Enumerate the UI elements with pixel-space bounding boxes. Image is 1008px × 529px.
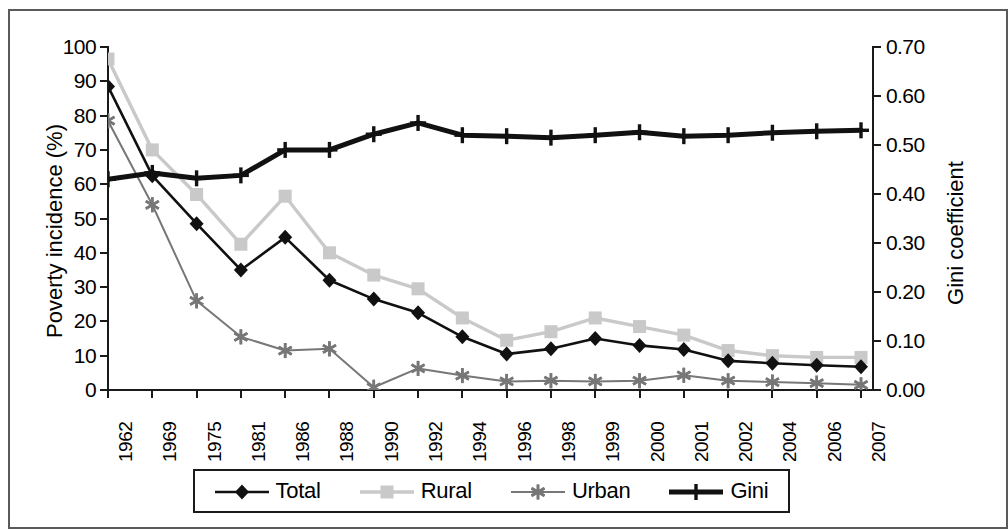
left-tick-label: 0 (34, 379, 96, 400)
x-tick (417, 391, 419, 398)
left-tick (100, 355, 107, 357)
legend-item-gini[interactable]: Gini (669, 480, 768, 502)
right-tick-label: 0.50 (886, 134, 956, 155)
left-tick (100, 286, 107, 288)
x-tick-label-2002: 2002 (736, 422, 755, 462)
x-tick (196, 391, 198, 398)
chart-legend: TotalRuralUrbanGini (193, 469, 790, 513)
right-tick (874, 95, 881, 97)
series-layer (108, 47, 873, 390)
left-tick-label: 100 (34, 36, 96, 57)
right-tick (874, 340, 881, 342)
legend-label: Gini (730, 480, 768, 502)
x-tick (240, 391, 242, 398)
x-tick (816, 391, 818, 398)
x-tick-label-1996: 1996 (515, 422, 534, 462)
left-tick (100, 320, 107, 322)
plus-marker (669, 482, 723, 500)
x-tick-label-2004: 2004 (780, 422, 799, 462)
right-tick-label: 0.70 (886, 36, 956, 57)
left-tick (100, 252, 107, 254)
left-tick (100, 183, 107, 185)
x-tick-label-2007: 2007 (869, 422, 888, 462)
plot-area (108, 47, 873, 390)
x-tick (594, 391, 596, 398)
x-tick (373, 391, 375, 398)
left-tick-label: 70 (34, 139, 96, 160)
legend-item-urban[interactable]: Urban (511, 480, 630, 502)
left-tick-label: 80 (34, 105, 96, 126)
x-tick (284, 391, 286, 398)
x-tick-label-2001: 2001 (692, 422, 711, 462)
legend-label: Total (276, 480, 321, 502)
right-tick-label: 0.20 (886, 281, 956, 302)
x-tick-label-1998: 1998 (559, 422, 578, 462)
right-tick (874, 144, 881, 146)
left-tick-label: 60 (34, 173, 96, 194)
x-tick-label-2000: 2000 (648, 422, 667, 462)
x-tick (727, 391, 729, 398)
left-tick-label: 90 (34, 70, 96, 91)
left-tick-label: 40 (34, 242, 96, 263)
x-tick-label-1994: 1994 (470, 422, 489, 462)
x-tick (683, 391, 685, 398)
x-tick-label-1988: 1988 (337, 422, 356, 462)
series-gini (108, 115, 869, 187)
x-tick (461, 391, 463, 398)
x-tick (550, 391, 552, 398)
left-tick (100, 46, 107, 48)
x-tick (639, 391, 641, 398)
right-tick (874, 193, 881, 195)
left-tick-label: 20 (34, 310, 96, 331)
legend-label: Rural (421, 480, 472, 502)
x-tick-label-1999: 1999 (603, 422, 622, 462)
x-tick-label-1986: 1986 (293, 422, 312, 462)
x-tick-label-1969: 1969 (160, 422, 179, 462)
legend-label: Urban (572, 480, 630, 502)
right-tick (874, 46, 881, 48)
left-tick (100, 115, 107, 117)
x-tick (506, 391, 508, 398)
left-tick-label: 10 (34, 345, 96, 366)
x-tick-label-1992: 1992 (426, 422, 445, 462)
left-tick-label: 30 (34, 276, 96, 297)
right-tick-label: 0.00 (886, 379, 956, 400)
right-tick-label: 0.30 (886, 232, 956, 253)
x-tick-label-1975: 1975 (205, 422, 224, 462)
x-tick (860, 391, 862, 398)
legend-item-total[interactable]: Total (215, 480, 321, 502)
right-tick (874, 291, 881, 293)
series-rural (108, 53, 868, 364)
right-tick (874, 242, 881, 244)
left-tick-label: 50 (34, 208, 96, 229)
right-tick-label: 0.60 (886, 85, 956, 106)
legend-item-rural[interactable]: Rural (360, 480, 472, 502)
left-tick (100, 218, 107, 220)
x-tick (771, 391, 773, 398)
right-tick-label: 0.10 (886, 330, 956, 351)
x-tick-label-1981: 1981 (249, 422, 268, 462)
right-tick-label: 0.40 (886, 183, 956, 204)
x-tick-label-1962: 1962 (116, 422, 135, 462)
x-tick (151, 391, 153, 398)
square-marker (360, 482, 414, 500)
asterisk-marker (511, 482, 565, 500)
left-tick (100, 389, 107, 391)
left-tick (100, 80, 107, 82)
left-tick (100, 149, 107, 151)
diamond-marker (215, 482, 269, 500)
right-tick (874, 389, 881, 391)
x-tick (328, 391, 330, 398)
x-tick-label-2006: 2006 (825, 422, 844, 462)
x-tick-label-1990: 1990 (382, 422, 401, 462)
x-tick (107, 391, 109, 398)
